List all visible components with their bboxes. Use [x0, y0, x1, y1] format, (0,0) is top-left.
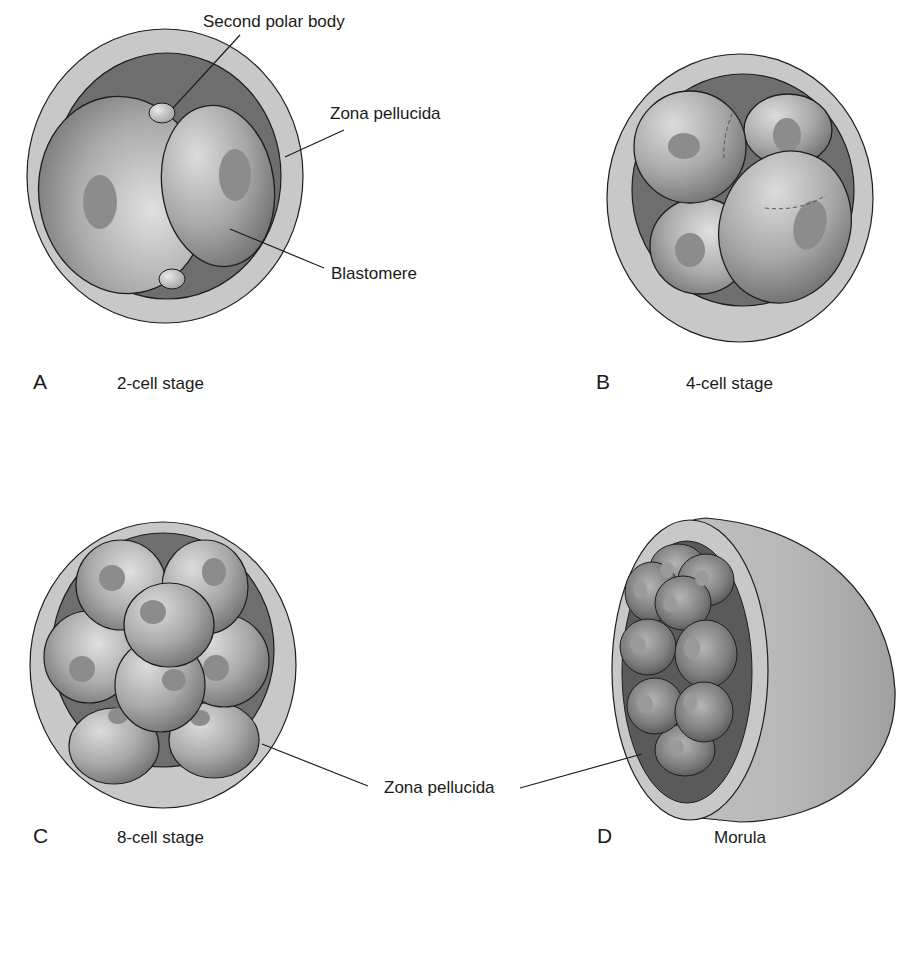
nucleus-c-5 [69, 656, 95, 682]
nucleus-c-2 [202, 558, 226, 586]
panel-c-8-cell-embryo [30, 522, 368, 808]
panel-a-2-cell-embryo [23, 29, 344, 323]
label-zona-pellucida-top: Zona pellucida [330, 104, 441, 124]
label-second-polar-body: Second polar body [203, 12, 345, 32]
nucleus-b-top-right [773, 118, 801, 152]
morula-cell [620, 619, 676, 675]
label-zona-pellucida-bottom: Zona pellucida [384, 778, 495, 798]
blastomere-c-3 [124, 583, 214, 667]
panel-d-morula [520, 518, 895, 822]
embryo-cleavage-diagram [0, 0, 910, 969]
nucleus-c-4 [162, 669, 186, 691]
nucleus-b-bottom-left [675, 233, 705, 267]
panel-letter-c: C [33, 824, 48, 848]
panel-caption-b: 4-cell stage [686, 374, 773, 394]
nucleus-right [219, 149, 251, 201]
nucleus-c-3 [140, 600, 166, 624]
panel-letter-a: A [33, 370, 47, 394]
nucleus-c-6 [203, 655, 229, 681]
morula-cell [675, 682, 733, 742]
label-blastomere: Blastomere [331, 264, 417, 284]
leader-zona-c [262, 744, 368, 786]
morula-cell [675, 620, 737, 688]
panel-b-4-cell-embryo [607, 54, 873, 342]
nucleus-left [83, 175, 117, 229]
nucleus-b-top-left [668, 133, 700, 159]
panel-letter-b: B [596, 370, 610, 394]
polar-body-top [149, 103, 175, 123]
polar-body-bottom [159, 269, 185, 289]
panel-caption-c: 8-cell stage [117, 828, 204, 848]
panel-letter-d: D [597, 824, 612, 848]
nucleus-c-1 [99, 565, 125, 591]
morula-cell [627, 678, 683, 734]
panel-caption-d: Morula [714, 828, 766, 848]
panel-caption-a: 2-cell stage [117, 374, 204, 394]
leader-zona-d [520, 754, 642, 788]
